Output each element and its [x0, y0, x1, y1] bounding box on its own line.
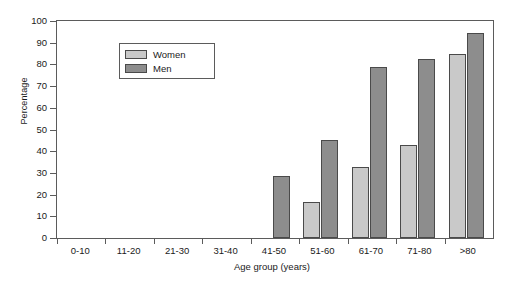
- x-axis-tick-label: 0-10: [71, 245, 90, 256]
- bar-women-61-70: [352, 167, 369, 238]
- y-axis-tick-label: 40: [36, 145, 47, 156]
- x-axis-tick: [445, 238, 446, 244]
- y-axis-tick-label: 80: [36, 58, 47, 69]
- bar-men-51-60: [321, 140, 338, 238]
- y-axis-tick: 80: [50, 64, 57, 65]
- x-axis-tick-label: 11-20: [117, 245, 141, 256]
- x-axis-tick-label: >80: [460, 245, 476, 256]
- y-axis-tick: 60: [50, 108, 57, 109]
- bar-men-71-80: [418, 59, 435, 238]
- y-axis-tick-label: 100: [31, 15, 47, 26]
- x-axis-tick-label: 41-50: [262, 245, 286, 256]
- bar-men->80: [467, 33, 484, 238]
- x-axis-tick-label: 51-60: [310, 245, 334, 256]
- y-axis-tick-label: 70: [36, 80, 47, 91]
- y-axis-tick: 50: [50, 130, 57, 131]
- bar-men-41-50: [273, 176, 290, 238]
- y-axis-label: Percentage: [19, 41, 29, 161]
- x-axis-tick: [348, 238, 349, 244]
- y-axis-tick-label: 30: [36, 167, 47, 178]
- x-axis-label: Age group (years): [56, 261, 488, 272]
- y-axis-tick-label: 60: [36, 102, 47, 113]
- y-axis-tick: 100: [50, 21, 57, 22]
- x-axis-tick: [396, 238, 397, 244]
- x-axis-tick-label: 21-30: [165, 245, 189, 256]
- legend: Women Men: [119, 43, 215, 79]
- x-axis-tick: [105, 238, 106, 244]
- legend-item-women: Women: [125, 48, 209, 61]
- y-axis-tick-label: 0: [42, 232, 47, 243]
- y-axis-tick-label: 20: [36, 189, 47, 200]
- legend-item-men: Men: [125, 62, 209, 75]
- x-axis-tick: [299, 238, 300, 244]
- bar-men-61-70: [370, 67, 387, 238]
- legend-label-men: Men: [153, 64, 171, 74]
- y-axis-tick: 20: [50, 195, 57, 196]
- plot-area: 0102030405060708090100 Women Men: [56, 20, 494, 239]
- bar-women->80: [449, 54, 466, 238]
- y-axis-tick: 90: [50, 43, 57, 44]
- y-axis-tick: 10: [50, 216, 57, 217]
- x-axis-tick: [154, 238, 155, 244]
- legend-label-women: Women: [153, 50, 186, 60]
- y-axis-tick-label: 10: [36, 210, 47, 221]
- y-axis-tick-label: 90: [36, 37, 47, 48]
- y-axis-tick: 40: [50, 151, 57, 152]
- y-axis-tick: 0: [50, 238, 57, 239]
- legend-swatch-women-icon: [125, 50, 147, 59]
- x-axis-tick-label: 61-70: [359, 245, 383, 256]
- x-axis-tick: [251, 238, 252, 244]
- x-axis-tick-label: 71-80: [407, 245, 431, 256]
- y-axis-tick: 70: [50, 86, 57, 87]
- y-axis-tick: 30: [50, 173, 57, 174]
- x-axis-tick: [202, 238, 203, 244]
- legend-swatch-men-icon: [125, 64, 147, 73]
- x-axis-tick: [57, 238, 58, 244]
- y-axis-tick-label: 50: [36, 124, 47, 135]
- bar-women-51-60: [303, 202, 320, 238]
- bar-chart-figure: Percentage 0102030405060708090100 Women …: [0, 0, 508, 286]
- bar-women-71-80: [400, 145, 417, 238]
- x-axis-tick-label: 31-40: [213, 245, 237, 256]
